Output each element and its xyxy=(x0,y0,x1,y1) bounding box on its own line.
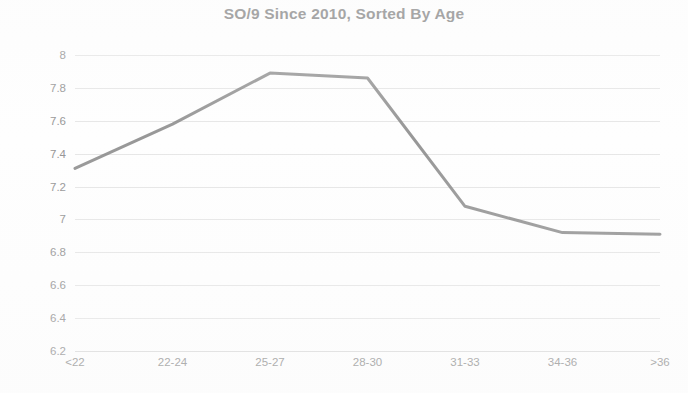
x-axis: <2222-2425-2728-3031-3334-36>36 xyxy=(75,356,660,380)
y-axis-tick-label: 6.6 xyxy=(6,279,66,291)
y-axis-tick-label: 8 xyxy=(6,49,66,61)
chart-title: SO/9 Since 2010, Sorted By Age xyxy=(0,5,688,23)
y-axis-tick-label: 7.4 xyxy=(6,148,66,160)
gridline-y xyxy=(75,351,660,352)
y-axis-tick-label: 6.8 xyxy=(6,246,66,258)
y-axis: 87.87.67.47.276.86.66.46.2 xyxy=(0,55,66,351)
x-axis-tick-label: 25-27 xyxy=(255,356,284,368)
y-axis-tick-label: 6.2 xyxy=(6,345,66,357)
x-axis-tick-label: >36 xyxy=(650,356,670,368)
y-axis-tick-label: 7.8 xyxy=(6,82,66,94)
x-axis-tick-label: 28-30 xyxy=(353,356,382,368)
plot-area xyxy=(75,55,660,351)
chart-container: SO/9 Since 2010, Sorted By Age 87.87.67.… xyxy=(0,0,688,393)
x-axis-tick-label: 22-24 xyxy=(158,356,187,368)
y-axis-tick-label: 7.6 xyxy=(6,115,66,127)
x-axis-tick-label: <22 xyxy=(65,356,85,368)
x-axis-tick-label: 34-36 xyxy=(548,356,577,368)
y-axis-tick-label: 7 xyxy=(6,213,66,225)
y-axis-tick-label: 7.2 xyxy=(6,181,66,193)
series-line-so9 xyxy=(75,55,660,351)
y-axis-tick-label: 6.4 xyxy=(6,312,66,324)
x-axis-tick-label: 31-33 xyxy=(450,356,479,368)
